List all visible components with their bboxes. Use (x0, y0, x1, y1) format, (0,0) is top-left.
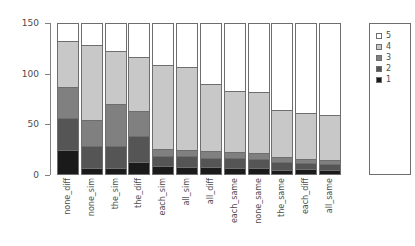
x-axis-label-text: none_sim (88, 178, 96, 216)
x-axis-label: each_diff (295, 178, 317, 244)
legend-item[interactable]: 2 (376, 64, 391, 73)
x-axis-label: all_diff (200, 178, 222, 244)
bar-segment[interactable] (82, 147, 102, 169)
bar-segment[interactable] (153, 66, 173, 150)
bar-stack[interactable] (176, 23, 198, 175)
x-axis-label: none_sim (81, 178, 103, 244)
bar-stack[interactable] (319, 23, 341, 175)
bar-segment[interactable] (129, 58, 149, 112)
bar-column[interactable] (128, 23, 150, 175)
bar-segment[interactable] (249, 169, 269, 174)
bar-segment[interactable] (296, 24, 316, 114)
bar-segment[interactable] (177, 24, 197, 68)
legend-item[interactable]: 4 (376, 42, 391, 51)
bar-segment[interactable] (177, 68, 197, 151)
legend-item[interactable]: 3 (376, 53, 391, 62)
legend-item-label: 1 (386, 76, 391, 84)
bar-segment[interactable] (82, 46, 102, 121)
bar-segment[interactable] (58, 151, 78, 174)
y-axis-tick-label: 100 (22, 70, 39, 79)
bar-segment[interactable] (82, 121, 102, 147)
legend-swatch-icon (376, 66, 382, 72)
bar-segment[interactable] (58, 119, 78, 151)
bar-column[interactable] (105, 23, 127, 175)
bar-column[interactable] (176, 23, 198, 175)
legend-item-label: 3 (386, 54, 391, 62)
bar-column[interactable] (81, 23, 103, 175)
bar-segment[interactable] (249, 160, 269, 169)
bar-column[interactable] (57, 23, 79, 175)
legend-item[interactable]: 1 (376, 75, 391, 84)
bar-segment[interactable] (106, 169, 126, 174)
bar-segment[interactable] (153, 24, 173, 66)
bar-segment[interactable] (129, 112, 149, 137)
bar-column[interactable] (224, 23, 246, 175)
x-axis-label: each_same (224, 178, 246, 244)
bar-segment[interactable] (129, 137, 149, 163)
bar-segment[interactable] (225, 169, 245, 174)
x-axis-label-text: the_same (278, 178, 286, 217)
bar-segment[interactable] (177, 157, 197, 168)
x-axis-label-text: the_diff (135, 178, 143, 208)
bar-segment[interactable] (177, 168, 197, 174)
bar-segment[interactable] (106, 105, 126, 147)
bar-stack[interactable] (57, 23, 79, 175)
bar-segment[interactable] (272, 24, 292, 111)
bar-column[interactable] (295, 23, 317, 175)
bar-segment[interactable] (58, 42, 78, 88)
bar-segment[interactable] (153, 157, 173, 167)
x-axis-label: the_sim (105, 178, 127, 244)
bar-stack[interactable] (224, 23, 246, 175)
bar-segment[interactable] (201, 159, 221, 168)
bar-segment[interactable] (320, 116, 340, 161)
bar-stack[interactable] (128, 23, 150, 175)
bar-segment[interactable] (249, 93, 269, 154)
bar-segment[interactable] (249, 24, 269, 93)
bar-segment[interactable] (225, 24, 245, 92)
bar-segment[interactable] (82, 24, 102, 46)
bar-segment[interactable] (106, 24, 126, 52)
bar-segment[interactable] (272, 171, 292, 174)
legend-item[interactable]: 5 (376, 31, 391, 40)
bar-stack[interactable] (271, 23, 293, 175)
bar-segment[interactable] (201, 152, 221, 159)
bar-column[interactable] (152, 23, 174, 175)
bar-column[interactable] (248, 23, 270, 175)
x-axis-label-text: all_same (326, 178, 334, 213)
x-axis-label: the_same (271, 178, 293, 244)
bar-column[interactable] (319, 23, 341, 175)
y-axis-tick-label: 150 (22, 19, 39, 28)
bar-segment[interactable] (272, 163, 292, 171)
bar-stack[interactable] (248, 23, 270, 175)
bar-segment[interactable] (129, 163, 149, 174)
bar-column[interactable] (271, 23, 293, 175)
bar-segment[interactable] (201, 24, 221, 85)
bar-segment[interactable] (320, 24, 340, 116)
bar-stack[interactable] (200, 23, 222, 175)
bar-segment[interactable] (153, 167, 173, 174)
bar-segment[interactable] (201, 168, 221, 174)
bar-segment[interactable] (225, 92, 245, 153)
y-axis-tick (45, 74, 50, 75)
bar-stack[interactable] (81, 23, 103, 175)
bar-segment[interactable] (225, 159, 245, 169)
bar-segment[interactable] (58, 24, 78, 42)
bar-segment[interactable] (296, 114, 316, 160)
bar-segment[interactable] (201, 85, 221, 152)
bar-segment[interactable] (106, 147, 126, 169)
bar-segment[interactable] (82, 169, 102, 174)
bar-stack[interactable] (105, 23, 127, 175)
y-axis-line (50, 23, 51, 175)
bar-segment[interactable] (58, 88, 78, 119)
plot-area (56, 23, 342, 175)
bar-segment[interactable] (106, 52, 126, 105)
bar-segment[interactable] (296, 170, 316, 174)
x-axis-label-text: none_same (255, 178, 263, 224)
bar-segment[interactable] (153, 150, 173, 157)
bar-segment[interactable] (129, 24, 149, 58)
bar-segment[interactable] (320, 171, 340, 174)
bar-stack[interactable] (295, 23, 317, 175)
bar-column[interactable] (200, 23, 222, 175)
bar-segment[interactable] (272, 111, 292, 158)
bar-stack[interactable] (152, 23, 174, 175)
